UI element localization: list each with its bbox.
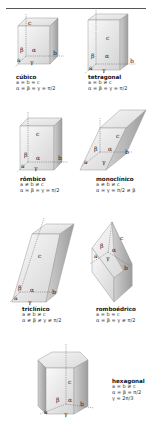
monoclinic-caption: monoclínico a ≠ b ≠ c α = γ = π/2 ≠ β [96, 176, 135, 194]
tetragonal-caption: tetragonal a = b ≠ c α = β = γ = π/2 [88, 74, 127, 92]
axis-a-label: a [14, 294, 18, 301]
angle-relation: α = β = γ = π/2 [88, 86, 127, 92]
angle-gamma-label: γ [64, 410, 68, 418]
angle-gamma-label: γ [34, 164, 38, 172]
top-divider [6, 8, 146, 9]
angle-relation: α = β = γ = π/2 [20, 188, 59, 194]
angle-beta-label: β [18, 284, 22, 292]
crystal-hexagonal: c b a β α γ hexagonal a = b ≠ c α = β = … [30, 340, 152, 422]
angle-beta-label: β [56, 396, 60, 404]
rhombohedral-caption: romboédrico a = b = c α = β = γ ≠ π/2 [96, 306, 136, 324]
axis-a-label: a [89, 64, 93, 71]
angle-gamma-label: γ [102, 66, 106, 74]
monoclinic-lattice-illustration: c b a β α γ [76, 104, 152, 174]
axis-b-label: b [58, 154, 62, 161]
axis-b-label: b [80, 400, 84, 407]
crystal-monoclinic: c b a β α γ monoclínico a ≠ b ≠ c α = γ … [76, 104, 152, 205]
angle-relation-gamma: γ = 2π/3 [112, 396, 145, 402]
rhombohedral-lattice-illustration: c b a β α γ [76, 218, 152, 302]
angle-relation: α = β = γ = π/2 [16, 86, 55, 92]
angle-gamma-label: γ [30, 58, 34, 66]
axis-a-label: a [94, 252, 98, 259]
angle-alpha-label: α [30, 286, 34, 293]
triclinic-caption: triclínico a ≠ b ≠ c α ≠ β ≠ γ ≠ π/2 [22, 306, 61, 324]
crystal-orthorhombic: c b a β α γ rômbico a ≠ b ≠ c α = β = γ … [6, 110, 76, 205]
axis-a-label: a [21, 162, 25, 169]
crystal-tetragonal: c b a β α γ tetragonal a = b ≠ c α = β =… [80, 12, 150, 104]
angle-gamma-label: γ [28, 298, 32, 306]
angle-alpha-label: α [112, 246, 116, 253]
crystal-rhombohedral: c b a β α γ romboédrico a = b = c α = β … [76, 218, 152, 336]
triclinic-lattice-illustration: c b a β α γ [4, 214, 76, 306]
angle-alpha-label: α [36, 154, 40, 161]
hexagonal-lattice-illustration: c b a β α γ [30, 340, 110, 422]
tetragonal-lattice-illustration: c b a β α γ [80, 12, 150, 74]
cubic-caption: cúbico a = b = c α = β = γ = π/2 [16, 74, 55, 92]
crystal-cubic: c b a β α γ cúbico a = b = c α = β = γ =… [6, 12, 76, 104]
axis-b-label: b [124, 264, 128, 271]
hexagonal-caption: hexagonal a = b ≠ c α = β = π/2 γ = 2π/3 [112, 378, 145, 401]
axis-c-label: c [120, 234, 124, 241]
axis-b-label: b [52, 288, 56, 295]
axis-b-label: b [53, 49, 57, 56]
angle-gamma-label: γ [102, 158, 106, 166]
angle-alpha-label: α [105, 52, 109, 59]
axis-b-label: b [130, 57, 134, 64]
angle-beta-label: β [91, 52, 95, 60]
angle-beta-label: β [24, 151, 28, 159]
angle-alpha-label: α [68, 396, 72, 403]
angle-relation: α = γ = π/2 ≠ β [96, 188, 135, 194]
orthorhombic-lattice-illustration: c b a β α γ [6, 110, 76, 174]
angle-alpha-label: α [108, 145, 112, 152]
angle-relation: α ≠ β ≠ γ ≠ π/2 [22, 318, 61, 324]
orthorhombic-caption: rômbico a ≠ b ≠ c α = β = γ = π/2 [20, 176, 59, 194]
angle-relation: α = β = γ ≠ π/2 [96, 318, 136, 324]
axis-b-label: b [125, 148, 129, 155]
axis-a-label: a [44, 408, 48, 415]
axis-a-label: a [84, 158, 88, 165]
angle-beta-label: β [94, 145, 98, 153]
angle-gamma-label: γ [106, 254, 110, 262]
crystal-triclinic: c b a β α γ triclínico a ≠ b ≠ c α ≠ β ≠… [4, 214, 76, 336]
cubic-lattice-illustration: c b a β α γ [6, 12, 76, 74]
angle-alpha-label: α [32, 46, 36, 53]
angle-beta-label: β [20, 46, 24, 54]
angle-beta-label: β [100, 242, 104, 250]
axis-a-label: a [17, 56, 21, 63]
